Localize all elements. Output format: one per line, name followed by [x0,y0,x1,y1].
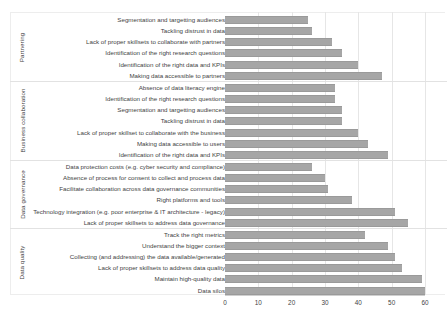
bar [225,185,328,193]
bar-track [225,115,429,126]
bar-track [225,138,429,149]
category-label: Understand the bigger context [142,240,225,251]
bar-track [225,217,429,228]
x-tick-label: 10 [255,299,262,306]
bar [225,264,402,272]
bar-row: Maintain high-quality data [0,273,447,284]
bar-row: Facilitate collaboration across data gov… [0,183,447,194]
bar-row: Lack of proper skillset to collaborate w… [0,127,447,138]
bar [225,253,395,261]
bar [225,219,408,227]
bar-chart: PartneringBusiness collaborationData gov… [0,0,447,324]
bar-row: Identification of the right data and KPI… [0,149,447,160]
category-label: Making data accessible to partners [129,70,225,81]
bar-row: Track the right metrics [0,229,447,240]
x-tick-label: 30 [321,299,328,306]
category-label: Absence of data literacy engine [139,82,225,93]
bar-row: Data protection costs (e.g. cyber securi… [0,161,447,172]
category-label: Data protection costs (e.g. cyber securi… [66,161,225,172]
bar-track [225,183,429,194]
category-label: Lack of proper skillsets to collaborate … [86,36,225,47]
bar-track [225,47,429,58]
bar-track [225,59,429,70]
bar-track [225,240,429,251]
category-label: Lack of proper skillset to collaborate w… [77,127,225,138]
bar [225,117,342,125]
plot-area: PartneringBusiness collaborationData gov… [0,0,447,324]
bar [225,151,388,159]
bar [225,16,308,24]
bar-row: Data silos [0,285,447,296]
category-label: Absence of process for consent to collec… [63,172,225,183]
bar-track [225,104,429,115]
bar-row: Collecting (and addressing) the data ava… [0,251,447,262]
bar-track [225,262,429,273]
category-label: Identification of the right data and KPI… [119,149,225,160]
category-label: Making data accessible to users [137,138,225,149]
category-label: Segmentation and targetting audiences [117,104,225,115]
bar-row: Making data accessible to partners [0,70,447,81]
bar-track [225,285,429,296]
bar [225,287,425,295]
x-tick-label: 50 [388,299,395,306]
category-label: Tackling distrust in data [161,25,225,36]
bar-row: Lack of proper skillsets to address data… [0,217,447,228]
bar-row: Identification of the right research que… [0,93,447,104]
category-label: Lack of proper skillsets to address data… [98,262,225,273]
bar [225,72,382,80]
bar-row: Understand the bigger context [0,240,447,251]
bar [225,242,388,250]
category-label: Right platforms and tools [157,194,225,205]
category-label: Tackling distrust in data [161,115,225,126]
x-tick-label: 40 [355,299,362,306]
bar-row: Identification of the right data and KPI… [0,59,447,70]
bar [225,174,325,182]
bar-row: Identification of the right research que… [0,47,447,58]
bar-row: Tackling distrust in data [0,115,447,126]
bar-track [225,70,429,81]
bar-track [225,149,429,160]
bar-track [225,194,429,205]
bar [225,208,395,216]
bar-row: Segmentation and targetting audiences [0,104,447,115]
bar-row: Technology integration (e.g. poor enterp… [0,206,447,217]
bar [225,196,352,204]
bar-row: Absence of data literacy engine [0,82,447,93]
bar-track [225,25,429,36]
bar [225,27,312,35]
category-label: Identification of the right data and KPI… [119,59,225,70]
bar-track [225,161,429,172]
bar-track [225,229,429,240]
bar-row: Absence of process for consent to collec… [0,172,447,183]
bar-track [225,206,429,217]
bar-track [225,36,429,47]
x-tick-label: 20 [288,299,295,306]
x-tick-label: 0 [223,299,227,306]
bar-row: Lack of proper skillsets to collaborate … [0,36,447,47]
bar-track [225,251,429,262]
category-label: Technology integration (e.g. poor enterp… [33,206,225,217]
bar-row: Segmentation and targetting audiences [0,14,447,25]
bar [225,95,335,103]
x-axis-line [225,295,425,296]
bar-track [225,273,429,284]
category-label: Maintain high-quality data [154,273,225,284]
bar [225,84,335,92]
bar [225,38,332,46]
bar-track [225,172,429,183]
bar-row: Lack of proper skillsets to address data… [0,262,447,273]
bar-track [225,93,429,104]
category-label: Track the right metrics [164,229,225,240]
category-label: Lack of proper skillsets to address data… [84,217,225,228]
x-tick-label: 60 [421,299,428,306]
category-label: Facilitate collaboration across data gov… [59,183,225,194]
category-label: Data silos [198,285,225,296]
bar [225,231,365,239]
bar-track [225,127,429,138]
category-label: Identification of the right research que… [105,93,225,104]
bar-track [225,14,429,25]
category-label: Identification of the right research que… [105,47,225,58]
bar-track [225,82,429,93]
bar [225,49,342,57]
category-label: Segmentation and targetting audiences [117,14,225,25]
